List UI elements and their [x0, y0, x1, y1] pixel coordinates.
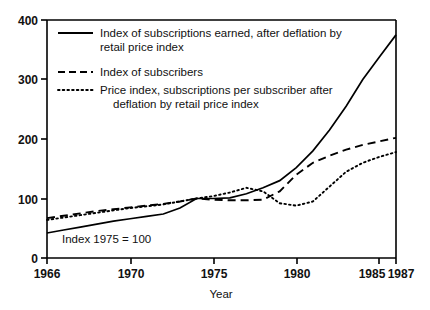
x-tick-marks — [47, 258, 396, 264]
y-tick-label-0: 0 — [31, 252, 38, 266]
legend-label-dotted-line1: Price index, subscriptions per subscribe… — [100, 84, 333, 96]
y-tick-labels: 400 300 200 100 0 — [18, 14, 38, 266]
legend-label-dotted-line2: deflation by retail price index — [113, 98, 259, 110]
chart-series-group — [47, 35, 396, 233]
series-line-price-index — [47, 152, 396, 220]
legend-label-solid-line2: retail price index — [100, 41, 184, 53]
series-line-subscribers — [47, 138, 396, 218]
x-tick-label-1987: 1987 — [388, 267, 415, 281]
x-axis-title: Year — [209, 288, 232, 300]
x-tick-label-1975: 1975 — [201, 267, 228, 281]
y-tick-marks — [41, 20, 47, 258]
x-tick-label-1966: 1966 — [34, 267, 61, 281]
x-tick-labels: 1966 1970 1975 1980 1985 1987 — [34, 267, 415, 281]
chart-legend: Index of subscriptions earned, after def… — [58, 27, 342, 110]
y-tick-label-400: 400 — [18, 14, 38, 28]
y-tick-label-300: 300 — [18, 73, 38, 87]
x-tick-label-1985: 1985 — [359, 267, 386, 281]
legend-label-solid-line1: Index of subscriptions earned, after def… — [100, 27, 342, 39]
y-tick-label-100: 100 — [18, 193, 38, 207]
chart-annotation-index-base: Index 1975 = 100 — [62, 233, 151, 245]
line-chart: 400 300 200 100 0 1966 1970 1975 1980 19… — [0, 0, 430, 310]
chart-container: 400 300 200 100 0 1966 1970 1975 1980 19… — [0, 0, 430, 310]
x-tick-label-1970: 1970 — [118, 267, 145, 281]
legend-label-dashed-line1: Index of subscribers — [100, 66, 203, 78]
x-tick-label-1980: 1980 — [284, 267, 311, 281]
series-line-subscriptions-earned — [47, 35, 396, 233]
chart-axes — [47, 20, 396, 258]
y-tick-label-200: 200 — [18, 133, 38, 147]
